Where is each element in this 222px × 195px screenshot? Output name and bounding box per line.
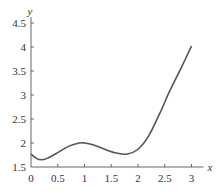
x-tick-label: 0.5 [51,172,65,184]
line-chart: 00.511.522.531.522.533.544.5xy [0,0,222,195]
x-tick-label: 2.5 [158,172,172,184]
x-tick-label: 3 [189,172,195,184]
x-axis-label: x [207,161,213,173]
y-tick-label: 3 [21,89,27,101]
plot-area [31,46,192,160]
x-tick-label: 0 [28,172,34,184]
x-tick-label: 1.5 [104,172,118,184]
y-tick-label: 3.5 [12,65,26,77]
y-tick-label: 1.5 [12,161,26,173]
y-tick-label: 2.5 [12,113,26,125]
y-axis-label: y [27,5,33,17]
x-tick-label: 1 [82,172,88,184]
series-line [31,46,192,160]
y-tick-label: 4 [21,41,27,53]
y-tick-label: 2 [21,137,27,149]
axes: 00.511.522.531.522.533.544.5xy [12,5,212,184]
y-tick-label: 4.5 [12,17,26,29]
x-tick-label: 2 [135,172,141,184]
